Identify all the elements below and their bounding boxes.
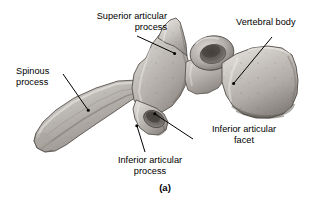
label-line-1: Superior articular [59,11,167,22]
label-line-2: process [16,77,76,88]
label-line-1: Vertebral body [236,17,316,28]
label-vertebral-body: Vertebral body [236,17,316,28]
label-superior-articular-process: Superior articular process [59,11,167,33]
label-line-1: Spinous [16,66,76,77]
label-line-2: process [99,166,201,177]
label-line-1: Inferior articular [99,155,201,166]
figure-caption: (a) [139,182,191,193]
label-line-2: process [59,22,167,33]
label-inferior-articular-process: Inferior articular process [99,155,201,177]
label-spinous-process: Spinous process [16,66,76,88]
anatomy-figure: Superior articular process Vertebral bod… [0,0,329,204]
label-line-1: Inferior articular [196,124,292,135]
label-overlay: Superior articular process Vertebral bod… [0,0,329,204]
label-line-2: facet [196,135,292,146]
label-inferior-articular-facet: Inferior articular facet [196,124,292,146]
